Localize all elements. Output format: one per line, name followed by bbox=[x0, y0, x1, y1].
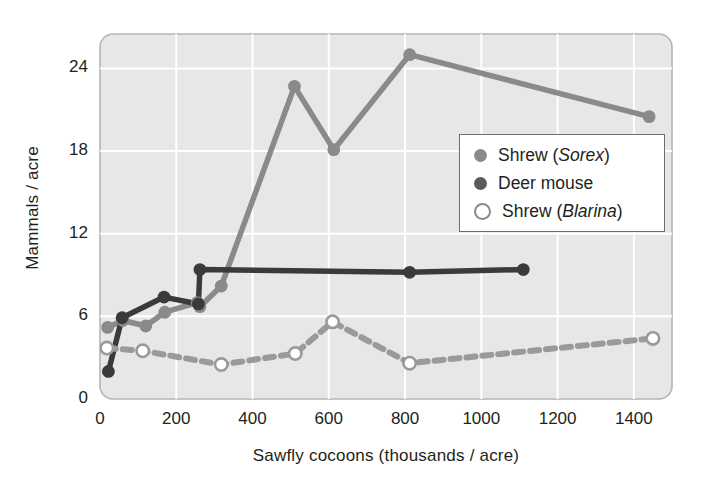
legend-label-deer-mouse: Deer mouse bbox=[498, 173, 593, 194]
data-point-1 bbox=[403, 266, 416, 279]
data-point-2 bbox=[215, 358, 227, 370]
x-tick-label: 800 bbox=[375, 409, 435, 429]
x-tick-label: 1400 bbox=[604, 409, 664, 429]
legend-marker-deer-mouse-icon bbox=[474, 177, 487, 190]
x-tick-label: 400 bbox=[223, 409, 283, 429]
data-point-2 bbox=[326, 316, 338, 328]
legend-marker-sorex-icon bbox=[474, 149, 487, 162]
y-tick-label: 12 bbox=[42, 223, 88, 243]
data-point-2 bbox=[101, 342, 113, 354]
data-point-2 bbox=[647, 332, 659, 344]
x-tick-label: 1000 bbox=[451, 409, 511, 429]
data-point-1 bbox=[158, 291, 171, 304]
data-point-2 bbox=[137, 345, 149, 357]
legend-label-sorex: Shrew (Sorex) bbox=[498, 145, 610, 166]
data-point-0 bbox=[403, 48, 416, 61]
data-point-1 bbox=[192, 298, 205, 311]
data-point-2 bbox=[403, 357, 415, 369]
data-point-0 bbox=[158, 306, 171, 319]
data-point-1 bbox=[517, 263, 530, 276]
data-point-2 bbox=[289, 347, 301, 359]
data-point-0 bbox=[139, 320, 152, 333]
data-point-1 bbox=[194, 263, 207, 276]
y-tick-label: 6 bbox=[42, 305, 88, 325]
x-axis-title: Sawfly cocoons (thousands / acre) bbox=[100, 446, 672, 466]
x-tick-label: 200 bbox=[146, 409, 206, 429]
data-point-1 bbox=[116, 311, 129, 324]
data-point-0 bbox=[643, 110, 656, 123]
y-tick-label: 0 bbox=[42, 388, 88, 408]
data-point-0 bbox=[101, 321, 114, 334]
chart-figure: 06121824 0200400600800100012001400 Mamma… bbox=[0, 0, 702, 482]
data-point-0 bbox=[327, 143, 340, 156]
data-point-0 bbox=[215, 280, 228, 293]
x-tick-label: 1200 bbox=[528, 409, 588, 429]
x-tick-label: 0 bbox=[70, 409, 130, 429]
chart-legend: Shrew (Sorex) Deer mouse Shrew (Blarina) bbox=[459, 134, 665, 232]
data-point-1 bbox=[102, 365, 115, 378]
data-point-0 bbox=[288, 80, 301, 93]
legend-item-deer-mouse: Deer mouse bbox=[474, 169, 593, 197]
y-axis-title: Mammals / acre bbox=[23, 123, 43, 293]
legend-label-blarina: Shrew (Blarina) bbox=[502, 201, 623, 222]
legend-marker-blarina-icon bbox=[474, 203, 491, 220]
legend-item-blarina: Shrew (Blarina) bbox=[474, 197, 623, 225]
y-tick-label: 18 bbox=[42, 140, 88, 160]
x-tick-label: 600 bbox=[299, 409, 359, 429]
legend-item-sorex: Shrew (Sorex) bbox=[474, 141, 610, 169]
y-tick-label: 24 bbox=[42, 57, 88, 77]
